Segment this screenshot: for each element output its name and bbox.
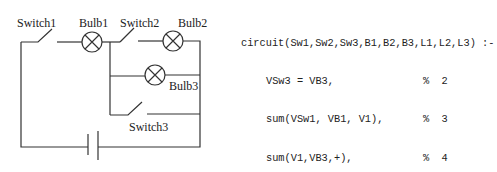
code-head: circuit(Sw1,Sw2,Sw3,B1,B2,B3,L1,L2,L3) :…	[241, 37, 253, 50]
bulb1-icon	[82, 32, 102, 52]
bulb1-label: Bulb1	[79, 16, 108, 30]
code-line: VSw3 = VB3,% 2	[241, 75, 253, 88]
battery-icon	[88, 131, 98, 160]
switch1-label: Switch1	[17, 16, 56, 30]
line-number-comment: % 2	[423, 75, 448, 88]
code-stmt: VSw3 = VB3,	[266, 75, 334, 88]
bulb2-icon	[163, 31, 183, 51]
clause-head: circuit(Sw1,Sw2,Sw3,B1,B2,B3,L1,L2,L3) :…	[241, 37, 494, 50]
line-number-comment: % 3	[423, 113, 448, 126]
circuit-diagram: Switch1 Bulb1 Switch2 Bulb2 Bulb3 Switch…	[0, 0, 240, 172]
switch3-label: Switch3	[129, 120, 168, 134]
prolog-code-listing: circuit(Sw1,Sw2,Sw3,B1,B2,B3,L1,L2,L3) :…	[241, 11, 253, 172]
code-stmt: sum(VSw1, VB1, V1),	[266, 113, 383, 126]
code-stmt: sum(V1,VB3,+),	[266, 152, 353, 165]
switch3-symbol	[110, 102, 200, 115]
code-line: sum(VSw1, VB1, V1),% 3	[241, 113, 253, 126]
switch2-symbol	[120, 28, 163, 42]
code-line: sum(V1,VB3,+),% 4	[241, 152, 253, 165]
switch1-symbol	[21, 29, 82, 42]
wire-left	[21, 42, 88, 147]
bulb2-label: Bulb2	[178, 16, 207, 30]
switch2-label: Switch2	[120, 16, 159, 30]
line-number-comment: % 4	[423, 152, 448, 165]
bulb3-icon	[145, 65, 165, 85]
bulb3-label: Bulb3	[169, 79, 198, 93]
